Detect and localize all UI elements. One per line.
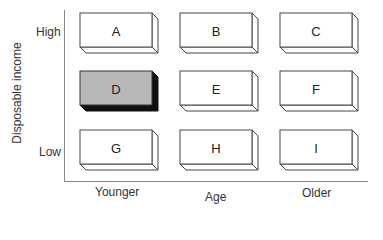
cell-e-label: E [180,82,252,97]
x-axis-older-label: Older [302,186,331,200]
cell-b-label: B [180,24,252,39]
cell-h-label: H [180,141,252,156]
x-axis-title: Age [205,190,226,204]
cell-c-label: C [280,24,352,39]
cell-d-label: D [80,82,152,97]
x-axis-younger-label: Younger [95,185,139,199]
cell-i-label: I [280,141,352,156]
cell-a-label: A [80,24,152,39]
y-axis-high-label: High [36,25,61,39]
y-axis-title: Disposable income [10,38,24,148]
cell-g-label: G [80,141,152,156]
cell-f-label: F [280,82,352,97]
y-axis-low-label: Low [39,145,61,159]
